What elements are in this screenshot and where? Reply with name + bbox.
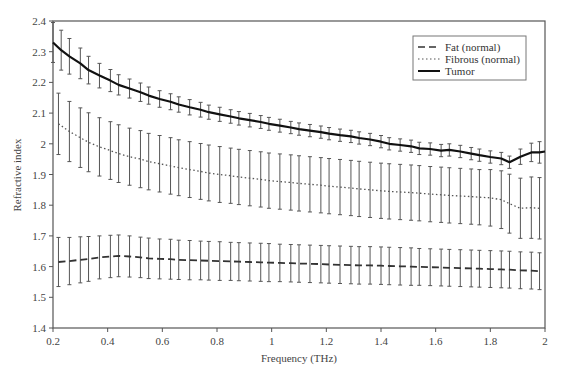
x-tick-label: 1.6 [429,335,443,347]
y-axis-ticks: 1.41.51.61.71.81.922.12.22.32.4 [32,15,53,334]
y-tick-label: 1.7 [32,230,46,242]
y-axis-title: Refractive index [11,138,23,211]
legend-label: Tumor [445,65,475,77]
y-tick-label: 1.4 [32,322,46,334]
series-fat-normal [56,235,541,290]
x-axis-ticks: 0.20.40.60.811.21.41.61.82 [46,328,548,347]
x-tick-label: 1.8 [483,335,497,347]
refractive-index-chart: 1.41.51.61.71.81.922.12.22.32.4 0.20.40.… [0,0,565,380]
chart-container: 1.41.51.61.71.81.922.12.22.32.4 0.20.40.… [0,0,565,380]
y-tick-label: 1.9 [32,169,46,181]
x-tick-label: 1.2 [319,335,333,347]
y-tick-label: 2.1 [32,107,46,119]
y-tick-label: 2.3 [32,46,46,58]
y-tick-label: 2.4 [32,15,46,27]
x-tick-label: 0.4 [101,335,115,347]
x-tick-label: 2 [542,335,548,347]
x-tick-label: 1 [269,335,275,347]
x-tick-label: 0.6 [155,335,169,347]
x-tick-label: 0.8 [210,335,224,347]
series-fibrous-normal [56,93,541,239]
x-axis-title: Frequency (THz) [261,352,337,365]
y-tick-label: 1.5 [32,291,46,303]
x-tick-label: 1.4 [374,335,388,347]
x-tick-label: 0.2 [46,335,60,347]
y-tick-label: 2 [41,138,47,150]
y-tick-label: 2.2 [32,76,46,88]
y-tick-label: 1.6 [32,261,46,273]
legend: Fat (normal) Fibrous (normal) Tumor [413,36,526,80]
y-tick-label: 1.8 [32,199,46,211]
